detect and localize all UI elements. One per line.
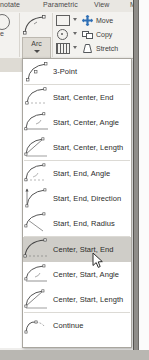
menu-item-label: Start, Center, Angle [53,118,119,127]
arc-start-end-angle-icon [23,161,53,186]
copy-icon [82,29,93,40]
menu-item-start-end-radius[interactable]: Start, End, Radius [23,211,131,236]
caret-down-icon[interactable] [34,50,40,53]
menu-item-center-start-end[interactable]: Center, Start, End [23,237,131,262]
arc-center-start-end-icon [23,237,53,262]
canvas-background [0,58,22,348]
move-command-label[interactable]: Move [96,17,113,24]
tab-view[interactable]: View [94,1,109,8]
ellipse-tool[interactable] [56,29,69,40]
stretch-command-label[interactable]: Stretch [96,45,118,52]
arc-label-text: Arc [31,40,42,47]
arc-start-end-direction-icon [23,186,53,211]
stretch-icon [82,43,93,54]
menu-item-start-center-angle[interactable]: Start, Center, Angle [23,110,131,135]
bottom-status-strip [0,350,149,360]
right-panel-strip [139,0,149,360]
menu-item-start-end-direction[interactable]: Start, End, Direction [23,186,131,211]
menu-item-label: Start, End, Direction [53,194,121,203]
arc-icon [23,14,48,35]
arc-center-start-length-icon [23,287,53,312]
move-icon [82,15,93,26]
tab-annotate[interactable]: nnotate [0,1,20,8]
left-partial-label: e [0,30,4,37]
arc-start-center-end-icon [23,85,53,110]
arc-center-start-angle-icon [23,262,53,287]
menu-item-label: Start, End, Radius [53,219,115,228]
arc-tool-button[interactable]: Arc [22,13,49,57]
menu-item-start-center-end[interactable]: Start, Center, End [23,85,131,110]
ellipse-icon [57,29,68,40]
menu-item-label: Center, Start, Length [53,295,123,304]
menu-item-continue[interactable]: Continue [23,313,131,338]
panel-shadow-strip [0,58,22,72]
panel-divider-2 [52,13,53,57]
menu-item-start-end-angle[interactable]: Start, End, Angle [23,161,131,186]
menu-item-start-center-length[interactable]: Start, Center, Length [23,135,131,160]
table-caret-icon[interactable] [73,46,77,49]
rectangle-tool[interactable] [56,15,69,26]
menu-item-label: Start, Center, End [53,93,114,102]
menu-item-label: Center, Start, End [53,245,114,254]
table-tool[interactable] [56,43,69,54]
menu-item-label: Start, End, Angle [53,169,110,178]
arc-start-center-angle-icon [23,110,53,135]
ellipse-caret-icon[interactable] [73,32,77,35]
screenshot-root: nnotate Parametric View M e Arc [0,0,149,360]
rectangle-caret-icon[interactable] [73,18,77,21]
menu-item-label: Center, Start, Angle [53,270,119,279]
mouse-cursor [92,252,104,269]
rectangle-icon [56,15,70,26]
menu-item-center-start-angle[interactable]: Center, Start, Angle [23,262,131,287]
arc-dropdown-menu[interactable]: 3-Point Start, Center, End [22,58,132,348]
tab-parametric[interactable]: Parametric [43,1,78,8]
copy-command-label[interactable]: Copy [96,31,112,38]
menu-item-center-start-length[interactable]: Center, Start, Length [23,287,131,312]
table-icon [56,43,70,54]
arc-continue-icon [23,313,53,338]
arc-start-end-radius-icon [23,211,53,236]
menu-item-label: Start, Center, Length [53,143,123,152]
arc-start-center-length-icon [23,135,53,160]
menu-item-label: 3-Point [53,67,77,76]
menu-item-3-point[interactable]: 3-Point [23,59,131,84]
panel-divider-1 [19,13,20,57]
arc-button-label[interactable]: Arc [22,37,51,59]
menu-item-label: Continue [53,321,83,330]
arc-3point-icon [23,59,53,84]
